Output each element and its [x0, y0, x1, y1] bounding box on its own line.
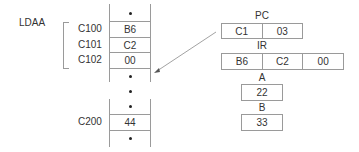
pc-low-byte: 03 [262, 24, 303, 38]
ir-register: B6 C2 00 [221, 53, 344, 70]
a-value: 22 [242, 85, 282, 100]
pc-register: C1 03 [221, 23, 303, 39]
ir-byte-1: B6 [222, 54, 262, 69]
pc-pointer-arrow [0, 0, 359, 152]
ir-label: IR [221, 40, 303, 51]
ir-byte-2: C2 [262, 54, 303, 69]
b-label: B [241, 102, 283, 113]
a-label: A [241, 72, 283, 83]
b-register: 33 [241, 114, 283, 131]
a-register: 22 [241, 84, 283, 101]
pc-label: PC [221, 10, 303, 21]
b-value: 33 [242, 115, 282, 130]
pc-high-byte: C1 [222, 24, 262, 38]
ir-byte-3: 00 [302, 54, 343, 69]
